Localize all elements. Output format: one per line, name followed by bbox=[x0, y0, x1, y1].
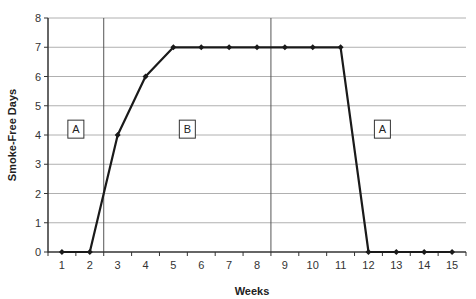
chart: 012345678 123456789101112131415 ABA Week… bbox=[0, 0, 476, 299]
x-tick-label: 8 bbox=[254, 259, 260, 271]
phase-label: B bbox=[184, 123, 191, 135]
y-axis-ticks: 012345678 bbox=[35, 12, 48, 258]
data-series bbox=[59, 44, 455, 255]
x-tick-label: 4 bbox=[142, 259, 148, 271]
x-tick-label: 15 bbox=[446, 259, 458, 271]
x-tick-label: 6 bbox=[198, 259, 204, 271]
y-tick-label: 6 bbox=[35, 71, 41, 83]
y-tick-label: 2 bbox=[35, 188, 41, 200]
data-line bbox=[62, 47, 452, 252]
x-tick-label: 10 bbox=[307, 259, 319, 271]
x-tick-label: 9 bbox=[282, 259, 288, 271]
x-tick-label: 3 bbox=[115, 259, 121, 271]
x-tick-label: 13 bbox=[390, 259, 402, 271]
x-axis-title: Weeks bbox=[235, 285, 270, 297]
x-tick-label: 11 bbox=[335, 259, 346, 271]
x-tick-label: 12 bbox=[362, 259, 374, 271]
x-axis-ticks: 123456789101112131415 bbox=[48, 252, 466, 271]
data-point-marker bbox=[338, 44, 344, 50]
y-tick-label: 7 bbox=[35, 41, 41, 53]
data-point-marker bbox=[282, 44, 288, 50]
x-tick-label: 5 bbox=[170, 259, 176, 271]
data-point-marker bbox=[449, 249, 455, 255]
data-point-marker bbox=[87, 249, 93, 255]
x-tick-label: 2 bbox=[87, 259, 93, 271]
data-point-marker bbox=[393, 249, 399, 255]
data-point-marker bbox=[310, 44, 316, 50]
x-tick-label: 7 bbox=[226, 259, 232, 271]
phase-label: A bbox=[379, 123, 387, 135]
data-point-marker bbox=[59, 249, 65, 255]
y-tick-label: 8 bbox=[35, 12, 41, 24]
data-point-marker bbox=[421, 249, 427, 255]
y-tick-label: 5 bbox=[35, 100, 41, 112]
y-tick-label: 4 bbox=[35, 129, 41, 141]
y-axis-title: Smoke-Free Days bbox=[6, 89, 18, 181]
x-tick-label: 1 bbox=[59, 259, 65, 271]
y-tick-label: 1 bbox=[35, 217, 41, 229]
data-point-marker bbox=[365, 249, 371, 255]
y-tick-label: 0 bbox=[35, 246, 41, 258]
data-point-marker bbox=[226, 44, 232, 50]
data-point-marker bbox=[198, 44, 204, 50]
x-tick-label: 14 bbox=[418, 259, 430, 271]
data-point-marker bbox=[254, 44, 260, 50]
phase-label: A bbox=[72, 123, 80, 135]
y-tick-label: 3 bbox=[35, 158, 41, 170]
